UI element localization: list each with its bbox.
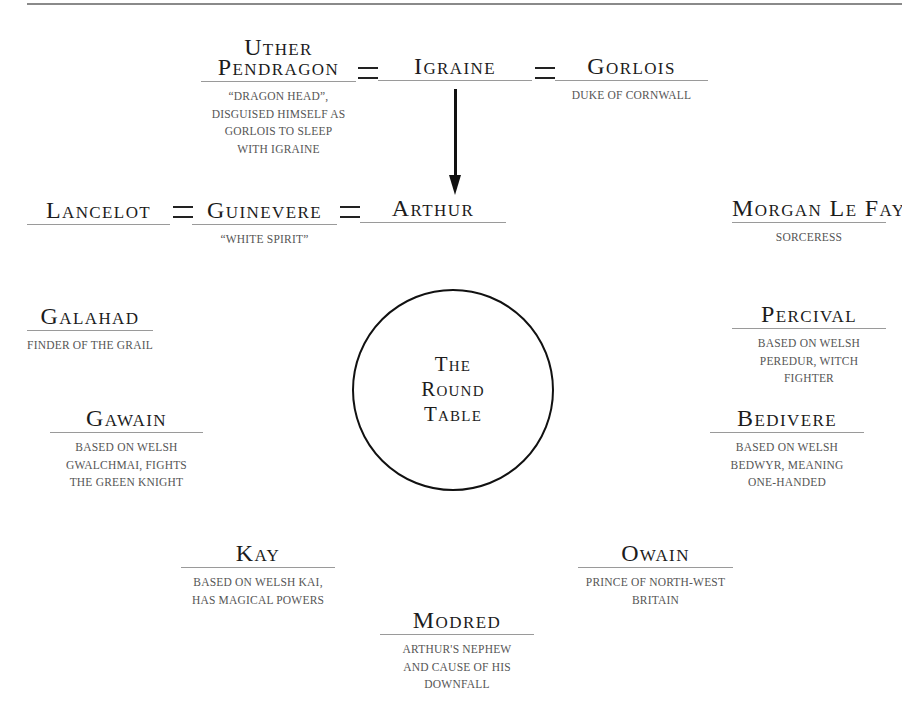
person-name: Percival [732,304,886,324]
desc-line: Based on Welsh [50,439,203,457]
desc-line: “White spirit” [192,231,337,249]
person-name: Bedivere [710,408,864,428]
descent-arrow-shaft [454,89,457,177]
desc-line: Britain [578,592,733,610]
person-description: “Dragon head”, disguised himself as Gorl… [201,88,356,158]
person-name: Igraine [378,56,532,76]
person-arthur: Arthur [360,198,506,223]
person-description: Sorceress [732,229,886,247]
name-underline [732,222,886,223]
desc-line: Gwalchmai, fights [50,457,203,475]
person-description: Based on Welsh Bedwyr, meaning one-hande… [710,439,864,492]
person-morgan-le-fay: Morgan Le Fay Sorceress [732,198,886,247]
person-description: Based on Welsh Gwalchmai, fights the Gre… [50,439,203,492]
person-kay: Kay Based on Welsh Kai, has magical powe… [181,543,335,609]
person-name: Galahad [27,306,153,326]
name-underline [27,330,153,331]
round-table-label: The Round Table [352,352,554,427]
name-underline [201,81,356,82]
desc-line: Prince of North-West [578,574,733,592]
desc-line: Duke of Cornwall [555,87,708,105]
desc-line: downfall [380,676,534,694]
name-underline [378,80,532,81]
person-guinevere: Guinevere “White spirit” [192,200,337,249]
person-name: Gawain [50,408,203,428]
person-bedivere: Bedivere Based on Welsh Bedwyr, meaning … [710,408,864,492]
person-name: Lancelot [27,200,170,220]
person-name: Uther Pendragon [201,37,356,77]
name-underline [555,80,708,81]
person-modred: Modred Arthur's nephew and cause of his … [380,610,534,694]
label-line: Round [352,377,554,402]
desc-line: Peredur, witch [732,353,886,371]
person-name: Kay [181,543,335,563]
person-name: Owain [578,543,733,563]
name-underline [192,224,337,225]
desc-line: one-handed [710,474,864,492]
person-name: Morgan Le Fay [732,198,886,218]
desc-line: the Green Knight [50,474,203,492]
person-description: Arthur's nephew and cause of his downfal… [380,641,534,694]
person-name: Arthur [360,198,506,218]
desc-line: Bedwyr, meaning [710,457,864,475]
person-name: Gorlois [555,56,708,76]
top-divider-rule [27,3,902,5]
person-description: Based on Welsh Kai, has magical powers [181,574,335,609]
person-description: Based on Welsh Peredur, witch fighter [732,335,886,388]
name-underline [360,222,506,223]
marriage-symbol-uther-igraine [358,67,378,79]
name-underline [50,432,203,433]
desc-line: “Dragon head”, [201,88,356,106]
marriage-symbol-lancelot-guinevere [173,206,193,218]
name-underline [380,634,534,635]
person-description: Duke of Cornwall [555,87,708,105]
name-line: Pendragon [201,57,356,77]
person-uther-pendragon: Uther Pendragon “Dragon head”, disguised… [201,37,356,158]
desc-line: Based on Welsh [732,335,886,353]
marriage-symbol-igraine-gorlois [535,67,555,79]
marriage-symbol-guinevere-arthur [340,206,360,218]
person-gawain: Gawain Based on Welsh Gwalchmai, fights … [50,408,203,492]
person-owain: Owain Prince of North-West Britain [578,543,733,609]
desc-line: fighter [732,370,886,388]
label-line: Table [352,402,554,427]
name-underline [732,328,886,329]
person-description: “White spirit” [192,231,337,249]
desc-line: Sorceress [732,229,886,247]
person-description: Prince of North-West Britain [578,574,733,609]
desc-line: Finder of the Grail [27,337,153,355]
person-name: Guinevere [192,200,337,220]
desc-line: disguised himself as [201,106,356,124]
person-percival: Percival Based on Welsh Peredur, witch f… [732,304,886,388]
label-line: The [352,352,554,377]
name-underline [181,567,335,568]
person-gorlois: Gorlois Duke of Cornwall [555,56,708,105]
desc-line: Based on Welsh [710,439,864,457]
arrow-down-icon [449,175,461,195]
person-igraine: Igraine [378,56,532,81]
name-underline [27,224,170,225]
desc-line: Gorlois to sleep [201,123,356,141]
desc-line: and cause of his [380,659,534,677]
person-name: Modred [380,610,534,630]
desc-line: Arthur's nephew [380,641,534,659]
desc-line: has magical powers [181,592,335,610]
desc-line: with Igraine [201,141,356,159]
person-galahad: Galahad Finder of the Grail [27,306,153,355]
name-underline [710,432,864,433]
name-underline [578,567,733,568]
person-description: Finder of the Grail [27,337,153,355]
desc-line: Based on Welsh Kai, [181,574,335,592]
person-lancelot: Lancelot [27,200,170,225]
